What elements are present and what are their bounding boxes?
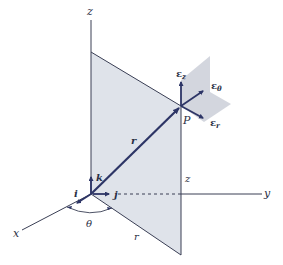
z-axis-label: z: [86, 5, 93, 18]
x-axis-label: x: [13, 227, 20, 240]
e-theta-label: εθ: [211, 80, 222, 93]
height-z-label: z: [184, 173, 191, 184]
tangent-plane: [181, 56, 231, 122]
e-z-label: εz: [176, 68, 187, 81]
point-p-label: P: [182, 114, 191, 127]
e-r-label: εr: [210, 117, 221, 130]
unit-vector-i: [77, 194, 91, 203]
radius-base-label: r: [134, 231, 140, 242]
theta-label: θ: [86, 218, 92, 229]
unit-i-label: i: [74, 188, 78, 199]
theta-arc: [67, 207, 112, 213]
y-axis-label: y: [263, 187, 271, 200]
radius-vector-label: r: [131, 135, 137, 146]
cylindrical-coordinates-diagram: z y x P r r z θ i j k εz εθ εr: [0, 0, 283, 265]
unit-k-label: k: [96, 172, 103, 183]
